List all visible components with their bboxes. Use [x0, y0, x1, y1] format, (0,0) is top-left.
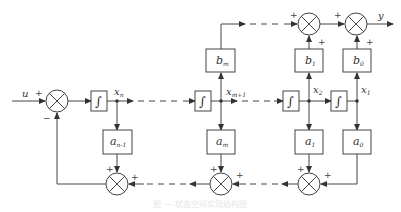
- state-label-x1: x1: [361, 84, 370, 96]
- input-label: u: [22, 88, 28, 99]
- output-summing-junction-2: [345, 13, 367, 35]
- state-label-x2: x2: [313, 84, 323, 96]
- sign-feedback-minus: −: [43, 113, 51, 123]
- sign-input-plus: +: [35, 88, 43, 98]
- sign-bot-1-right: +: [324, 170, 332, 180]
- output-label: y: [377, 10, 384, 21]
- sign-bot-m-top: +: [210, 164, 218, 174]
- node-x2: [307, 99, 311, 103]
- state-label-xm1: xm+1: [226, 86, 246, 98]
- sign-top2-left: +: [334, 10, 342, 20]
- input-summing-junction: [46, 90, 68, 112]
- block-diagram: ∫ ∫ ∫ ∫ u y xn xm+1 x2 x1 bm b1 b0 an-1 …: [0, 0, 401, 212]
- node-xm1: [219, 99, 223, 103]
- feedback-summing-junction-1: [298, 173, 320, 195]
- sign-bot-n-top: +: [106, 164, 114, 174]
- state-label-xn: xn: [114, 86, 124, 98]
- output-summing-junction-1: [298, 13, 320, 35]
- integrator-n-symbol: ∫: [95, 94, 102, 109]
- node-x1: [355, 99, 359, 103]
- sign-top1-bottom: +: [318, 37, 326, 47]
- integrator-m-symbol: ∫: [199, 94, 206, 109]
- figure-caption: 图 — 状态空间实现结构图: [153, 199, 246, 209]
- feedback-summing-junction-m: [210, 173, 232, 195]
- sign-top1-left: +: [290, 10, 298, 20]
- integrator-1-symbol: ∫: [335, 94, 342, 109]
- sign-bot-n-right: +: [131, 172, 139, 182]
- sign-bot-m-right: +: [236, 170, 244, 180]
- integrator-2-symbol: ∫: [287, 94, 294, 109]
- sign-top2-bottom: +: [366, 37, 374, 47]
- sign-bot-1-top: +: [297, 164, 305, 174]
- node-xn: [115, 99, 119, 103]
- feedback-summing-junction-n: [106, 173, 128, 195]
